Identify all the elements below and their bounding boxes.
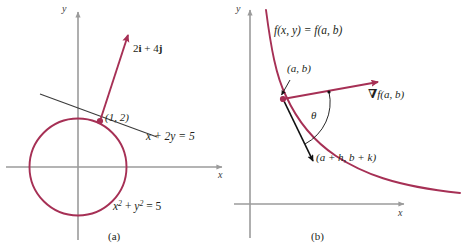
- point-label-a-b: (a, b): [287, 63, 311, 74]
- base-point-dot: [280, 96, 286, 102]
- x-axis-label: x: [398, 208, 402, 218]
- x-axis-label: x: [218, 170, 222, 180]
- panel-a: y x 2i + 4j (1, 2) x + 2y = 5 x2 + y2 = …: [0, 0, 232, 250]
- point-label-1-2: (1, 2): [105, 112, 129, 123]
- panel-b-graphic: [232, 0, 465, 250]
- tangent-line: [40, 94, 157, 137]
- angle-label-theta: θ: [311, 110, 316, 121]
- nabla-icon: ∇: [368, 87, 377, 101]
- circle-eq-plus: +: [122, 200, 134, 212]
- caption-panel-a: (a): [108, 231, 120, 242]
- level-curve-label: f(x, y) = f(a, b): [274, 25, 342, 37]
- gradient-vector-label: ∇f(a, b): [368, 88, 404, 100]
- circle-eq-equals: = 5: [143, 200, 161, 212]
- caption-panel-b: (b): [311, 231, 324, 242]
- y-axis-label: y: [236, 4, 240, 14]
- figure-container: y x 2i + 4j (1, 2) x + 2y = 5 x2 + y2 = …: [0, 0, 465, 250]
- panel-b: y x f(x, y) = f(a, b) (a, b) (a + h, b +…: [232, 0, 465, 250]
- vector-coeff-j: + 4: [142, 42, 159, 54]
- point-label-a-h-b-k: (a + h, b + k): [316, 152, 376, 163]
- level-curve: [266, 10, 460, 193]
- angle-arc: [305, 92, 330, 144]
- tangency-point-dot: [97, 118, 103, 124]
- gradient-label-text: f(a, b): [377, 88, 404, 100]
- vector-unit-j: j: [159, 42, 163, 54]
- y-axis-label: y: [62, 4, 66, 14]
- gradient-vector: [100, 35, 128, 121]
- angle-arc-tick: [327, 90, 330, 93]
- displacement-vector: [283, 99, 313, 161]
- gradient-vector: [283, 82, 378, 99]
- gradient-vector-label: 2i + 4j: [133, 43, 162, 54]
- circle-equation: x2 + y2 = 5: [113, 200, 161, 213]
- tangent-line-equation: x + 2y = 5: [146, 131, 195, 143]
- axes-panel-b: [234, 10, 404, 238]
